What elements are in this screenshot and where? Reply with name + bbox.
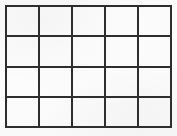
grid-body xyxy=(6,6,171,127)
grid-cell-r3c2[interactable] xyxy=(39,67,72,97)
table-row xyxy=(6,97,171,127)
grid-cell-r2c3[interactable] xyxy=(72,36,105,66)
grid-cell-r4c3[interactable] xyxy=(72,97,105,127)
table-row xyxy=(6,36,171,66)
blank-grid-table xyxy=(5,5,172,128)
grid-cell-r2c4[interactable] xyxy=(105,36,138,66)
grid-cell-r2c1[interactable] xyxy=(6,36,39,66)
grid-cell-r1c5[interactable] xyxy=(138,6,171,36)
grid-cell-r3c1[interactable] xyxy=(6,67,39,97)
grid-cell-r2c2[interactable] xyxy=(39,36,72,66)
table-row xyxy=(6,67,171,97)
grid-cell-r4c1[interactable] xyxy=(6,97,39,127)
grid-cell-r3c4[interactable] xyxy=(105,67,138,97)
grid-cell-r1c1[interactable] xyxy=(6,6,39,36)
grid-cell-r3c3[interactable] xyxy=(72,67,105,97)
grid-cell-r4c4[interactable] xyxy=(105,97,138,127)
grid-cell-r1c3[interactable] xyxy=(72,6,105,36)
grid-cell-r1c4[interactable] xyxy=(105,6,138,36)
grid-cell-r1c2[interactable] xyxy=(39,6,72,36)
table-row xyxy=(6,6,171,36)
scanned-page xyxy=(0,0,177,136)
grid-cell-r3c5[interactable] xyxy=(138,67,171,97)
grid-cell-r4c5[interactable] xyxy=(138,97,171,127)
grid-cell-r4c2[interactable] xyxy=(39,97,72,127)
grid-cell-r2c5[interactable] xyxy=(138,36,171,66)
